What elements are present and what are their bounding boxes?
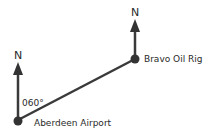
aberdeen-point-icon bbox=[14, 117, 23, 126]
aberdeen-label: Aberdeen Airport bbox=[34, 119, 111, 128]
north-label-bravo: N bbox=[131, 7, 139, 18]
bravo-label: Bravo Oil Rig bbox=[144, 55, 203, 64]
bravo-point-icon bbox=[131, 55, 140, 64]
north-arrow-aberdeen-head-icon bbox=[13, 62, 23, 75]
bearing-diagram bbox=[0, 0, 209, 137]
north-label-aberdeen: N bbox=[14, 50, 22, 61]
north-arrow-bravo-head-icon bbox=[130, 19, 140, 32]
bearing-label: 060° bbox=[22, 99, 44, 108]
route-line bbox=[18, 59, 135, 120]
